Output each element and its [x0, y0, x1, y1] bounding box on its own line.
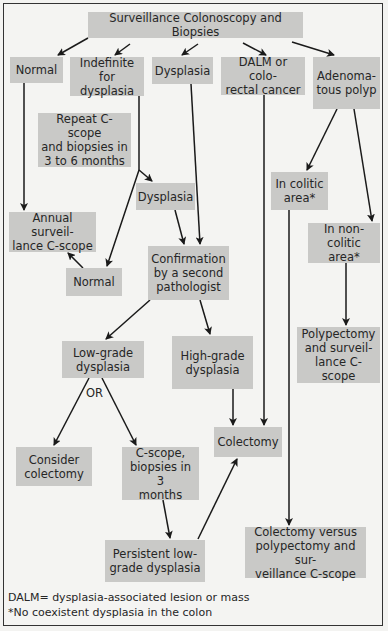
node-repeat: Repeat C-scope and biopsies in 3 to 6 mo… [38, 113, 131, 167]
node-colitic: In colitic area* [271, 172, 328, 210]
node-normal-mid: Normal [66, 268, 122, 296]
or-label: OR [86, 386, 103, 400]
node-consider: Consider colectomy [16, 447, 92, 486]
node-persistent: Persistent low- grade dysplasia [105, 540, 205, 582]
node-root: Surveillance Colonoscopy and Biopsies [88, 12, 303, 38]
node-adenomatous: Adenoma- tous polyp [313, 57, 380, 109]
node-noncolitic: In non- colitic area* [308, 223, 380, 263]
node-normal-top: Normal [10, 57, 63, 83]
node-highgrade: High-grade dysplasia [172, 336, 253, 389]
node-annual: Annual surveil- lance C-scope [9, 212, 96, 252]
node-colectomy: Colectomy [214, 427, 282, 457]
node-dysplasia-top: Dysplasia [152, 57, 213, 84]
node-dysplasia-mid: Dysplasia [136, 183, 195, 210]
node-confirmation: Confirmation by a second pathologist [148, 246, 229, 300]
node-colectomy-versus: Colectomy versus polypectomy and sur- ve… [245, 527, 366, 578]
footnote-asterisk: *No coexistent dysplasia in the colon [8, 606, 212, 619]
node-cscope: C-scope, biopsies in 3 months [122, 447, 199, 500]
node-polypectomy: Polypectomy and surveil- lance C-scope [297, 327, 380, 383]
node-dalm: DALM or colo- rectal cancer [221, 57, 305, 95]
node-indefinite: Indefinite for dysplasia [70, 57, 144, 96]
node-lowgrade: Low-grade dysplasia [62, 341, 144, 378]
footnote-dalm: DALM= dysplasia-associated lesion or mas… [8, 591, 249, 604]
